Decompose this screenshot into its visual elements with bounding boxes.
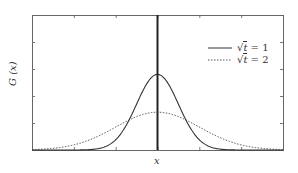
x-axis-label: x <box>154 156 160 166</box>
gaussian-chart <box>0 0 298 173</box>
y-axis-label: G (x) <box>8 61 18 86</box>
legend-entry-sqrt-t-2: √t = 2 <box>237 55 269 65</box>
legend-entry-sqrt-t-1: √t = 1 <box>237 43 269 53</box>
